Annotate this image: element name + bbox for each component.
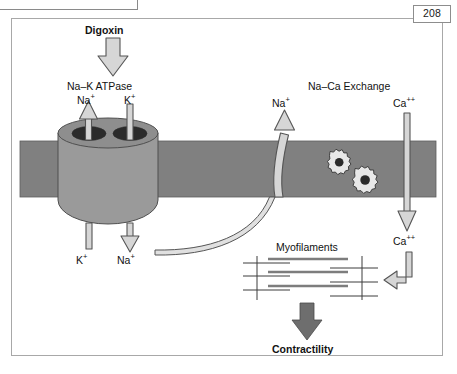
label-k-top-text: K bbox=[124, 94, 131, 106]
label-na-bottom: Na+ bbox=[117, 253, 135, 265]
label-na-top-text: Na bbox=[77, 94, 90, 106]
label-na-efflux-charge: + bbox=[285, 95, 289, 104]
label-ca-inside: Ca++ bbox=[393, 234, 415, 246]
figure-page: 208 .mem { fill:#808080; stroke:#5c5c5c;… bbox=[0, 0, 457, 374]
figure-frame bbox=[11, 18, 443, 356]
page-number-badge: 208 bbox=[413, 5, 451, 23]
page-top-box-fragment bbox=[0, 0, 138, 10]
label-k-bottom: K+ bbox=[76, 253, 87, 265]
label-na-efflux: Na+ bbox=[272, 96, 290, 108]
label-ca-outside-charge: ++ bbox=[406, 95, 415, 104]
label-digoxin: Digoxin bbox=[85, 25, 124, 36]
label-myofilaments: Myofilaments bbox=[276, 242, 338, 253]
label-na-top-charge: + bbox=[90, 92, 94, 101]
label-k-bottom-charge: + bbox=[83, 252, 87, 261]
label-na-bottom-charge: + bbox=[130, 252, 134, 261]
label-k-top-charge: + bbox=[131, 92, 135, 101]
label-ca-inside-text: Ca bbox=[393, 235, 406, 247]
label-ca-inside-charge: ++ bbox=[406, 233, 415, 242]
label-na-bottom-text: Na bbox=[117, 254, 130, 266]
label-na-k-atpase: Na–K ATPase bbox=[67, 81, 132, 92]
label-contractility: Contractility bbox=[272, 344, 333, 355]
label-k-bottom-text: K bbox=[76, 254, 83, 266]
label-k-top: K+ bbox=[124, 93, 135, 105]
label-ca-outside-text: Ca bbox=[393, 97, 406, 109]
label-na-ca-exchange: Na–Ca Exchange bbox=[308, 81, 390, 92]
label-ca-outside: Ca++ bbox=[393, 96, 415, 108]
label-na-efflux-text: Na bbox=[272, 97, 285, 109]
label-na-top: Na+ bbox=[77, 93, 95, 105]
